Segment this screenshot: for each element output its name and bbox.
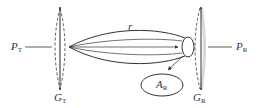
- antenna-link-diagram: PT GT r GR PR AR: [0, 0, 261, 108]
- label-g-t: GT: [54, 91, 67, 105]
- label-r: r: [128, 20, 133, 32]
- label-p-r: PR: [235, 40, 248, 54]
- receive-antenna: [195, 7, 206, 90]
- label-g-r: GR: [193, 91, 206, 105]
- label-a-r: AR: [155, 78, 168, 92]
- beam-lobe: [69, 30, 194, 63]
- transmit-antenna: [55, 7, 65, 90]
- label-p-t: PT: [10, 40, 23, 54]
- effective-area-arrow: [168, 56, 183, 70]
